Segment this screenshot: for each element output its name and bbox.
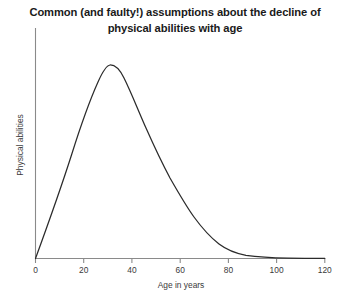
x-tick-label-100: 100: [270, 265, 284, 275]
x-tick-label-0: 0: [33, 265, 38, 275]
x-tick-label-40: 40: [127, 265, 137, 275]
x-axis-tick-labels: 0 20 40 60 80 100 120: [33, 265, 332, 275]
x-tick-label-120: 120: [318, 265, 332, 275]
physical-ability-curve: [36, 65, 325, 259]
x-axis-title: Age in years: [158, 280, 205, 290]
x-tick-label-60: 60: [176, 265, 186, 275]
x-axis-ticks: [36, 259, 325, 264]
x-tick-label-20: 20: [79, 265, 89, 275]
y-axis-title: Physical abilities: [15, 114, 25, 175]
chart-page: Common (and faulty!) assumptions about t…: [0, 0, 348, 299]
line-chart-plot: 0 20 40 60 80 100 120 Age in years Physi…: [0, 0, 348, 299]
x-tick-label-80: 80: [224, 265, 234, 275]
